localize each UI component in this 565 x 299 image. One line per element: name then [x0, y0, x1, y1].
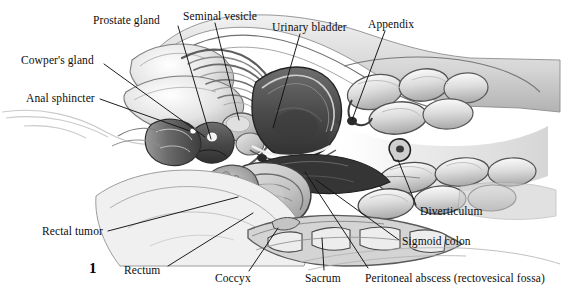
label-anal-sphincter: Anal sphincter	[26, 92, 95, 104]
label-cowpers-gland: Cowper's gland	[21, 54, 94, 66]
label-appendix: Appendix	[368, 18, 414, 30]
label-coccyx: Coccyx	[215, 272, 251, 284]
label-rectum: Rectum	[124, 264, 160, 276]
figure-number: 1	[89, 260, 97, 277]
anatomical-figure: Prostate glandSeminal vesicleUrinary bla…	[0, 0, 565, 299]
label-peritoneal-abscess: Peritoneal abscess (rectovesical fossa)	[365, 272, 545, 284]
label-sacrum: Sacrum	[305, 272, 341, 284]
label-seminal-vesicle: Seminal vesicle	[183, 10, 257, 22]
label-prostate-gland: Prostate gland	[93, 14, 160, 26]
label-rectal-tumor: Rectal tumor	[42, 225, 103, 237]
label-diverticulum: Diverticulum	[420, 205, 483, 217]
label-sigmoid-colon: Sigmoid colon	[402, 235, 471, 247]
anatomy-illustration	[0, 0, 565, 299]
label-urinary-bladder: Urinary bladder	[272, 21, 347, 33]
